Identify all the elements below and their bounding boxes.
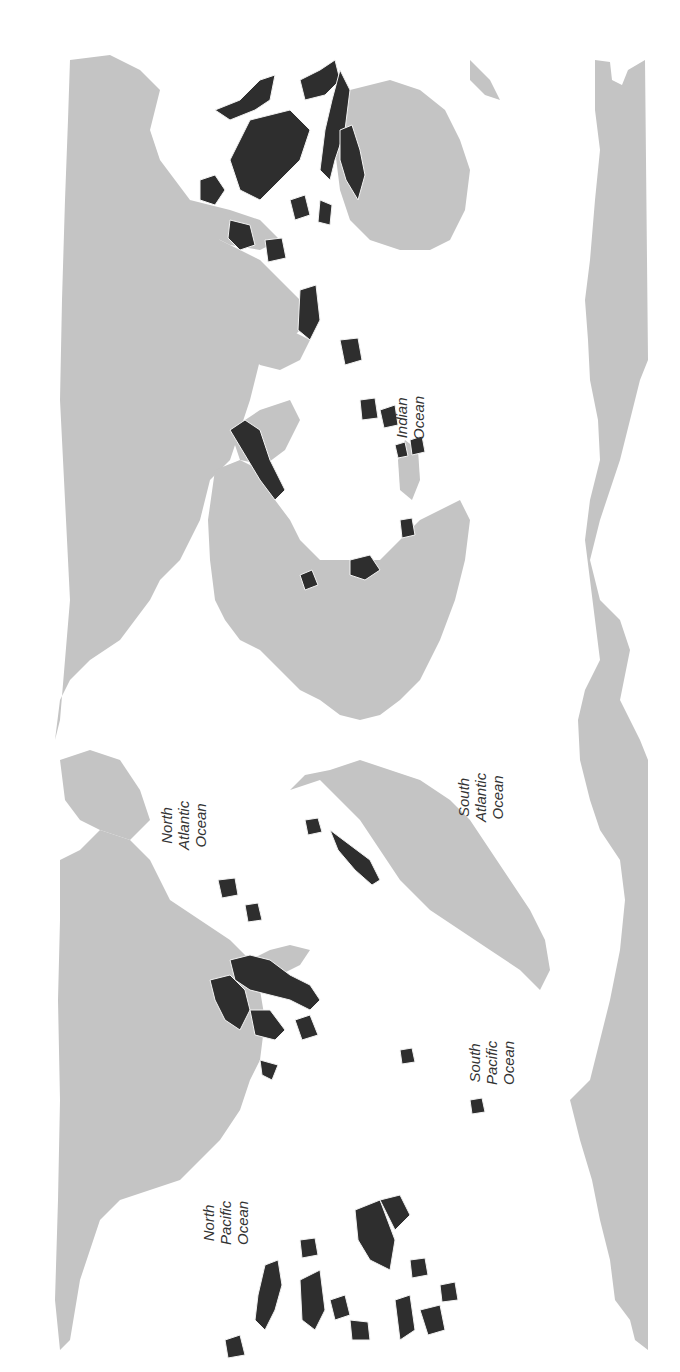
label-south-atlantic-ocean: South Atlantic Ocean bbox=[455, 773, 506, 822]
label-line: North bbox=[200, 1201, 217, 1245]
label-line: Ocean bbox=[410, 396, 427, 440]
label-indian-ocean: Indian Ocean bbox=[393, 396, 427, 440]
label-north-pacific-ocean: North Pacific Ocean bbox=[200, 1201, 251, 1245]
label-line: Ocean bbox=[234, 1201, 251, 1245]
reef-hawaii bbox=[255, 1260, 282, 1330]
north-america bbox=[55, 830, 265, 1350]
label-line: Atlantic bbox=[472, 773, 489, 822]
antarctica bbox=[570, 60, 648, 1350]
reef-maldives bbox=[298, 285, 320, 340]
label-line: South bbox=[455, 773, 472, 822]
greenland bbox=[60, 750, 150, 840]
landmasses bbox=[55, 55, 648, 1350]
south-america bbox=[290, 760, 550, 990]
label-line: Atlantic bbox=[175, 801, 192, 850]
label-line: Ocean bbox=[192, 801, 209, 850]
label-line: Ocean bbox=[489, 773, 506, 822]
reef-coral-triangle bbox=[230, 110, 310, 200]
label-line: Indian bbox=[393, 396, 410, 440]
new-zealand bbox=[470, 60, 500, 100]
label-line: Ocean bbox=[500, 1041, 517, 1085]
world-reef-map bbox=[0, 0, 680, 1372]
label-south-pacific-ocean: South Pacific Ocean bbox=[466, 1041, 517, 1085]
label-line: South bbox=[466, 1041, 483, 1085]
label-line: Pacific bbox=[217, 1201, 234, 1245]
label-line: North bbox=[158, 801, 175, 850]
label-north-atlantic-ocean: North Atlantic Ocean bbox=[158, 801, 209, 850]
africa bbox=[208, 460, 470, 720]
label-line: Pacific bbox=[483, 1041, 500, 1085]
